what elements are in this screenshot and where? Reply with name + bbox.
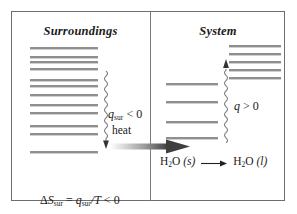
energy-levels-surroundings [30,47,98,159]
energy-level-line [30,133,98,135]
energy-level-line [30,79,98,81]
energy-level-line [229,69,281,71]
energy-level-line [30,61,98,63]
energy-level-line [30,85,98,87]
panel-surroundings: Surroundings qsur < 0 ΔSsur [11,11,150,201]
heat-transfer-arrow-icon [110,139,190,154]
product-o: O [245,155,253,167]
energy-level-line [229,77,281,79]
energy-levels-system-liquid [229,45,281,79]
q-surroundings-subscript: sur [114,113,123,122]
energy-level-line [166,121,218,123]
energy-level-line [166,101,218,103]
energy-level-line [229,61,281,63]
energy-level-line [30,151,98,153]
energy-level-line [30,112,98,114]
panel-title-system: System [151,24,285,39]
equals-symbol: = [66,193,73,207]
phase-change-equation: H2O (s) H2O (l) [160,155,267,169]
product-state: (l) [256,155,267,167]
energy-level-line [30,47,98,49]
q-system-relation: > 0 [243,99,259,113]
entropy-equation-surroundings: ΔSsur = qsur/T < 0 [40,193,120,208]
energy-level-line [30,94,98,96]
energy-level-line [30,68,98,70]
reaction-arrow-icon [201,158,227,167]
panel-title-surroundings: Surroundings [11,24,150,39]
energy-level-line [229,45,281,47]
heat-label: heat [112,124,131,136]
thermodynamics-diagram: Surroundings qsur < 0 ΔSsur [0,0,297,214]
s-subscript: sur [54,199,63,208]
q-subscript: sur [82,199,91,208]
reactant-o: O [172,155,180,167]
q-surroundings-label: qsur < 0 [108,107,142,122]
heat-flow-squiggle-up-icon [220,59,232,143]
relation-symbol: < 0 [104,193,120,207]
delta-symbol: Δ [40,193,48,207]
energy-level-line [229,53,281,55]
energy-level-line [166,83,218,85]
over-temperature: /T [91,193,101,207]
panel-system: System q > 0 ΔS = +22 J/K [151,11,285,201]
energy-level-line [30,125,98,127]
energy-level-line [30,104,98,106]
energy-levels-system-solid [166,83,218,139]
reactant-state: (s) [183,155,195,167]
q-system-label: q > 0 [234,99,259,114]
energy-level-line [30,56,98,58]
q-surroundings-relation: < 0 [126,107,142,121]
